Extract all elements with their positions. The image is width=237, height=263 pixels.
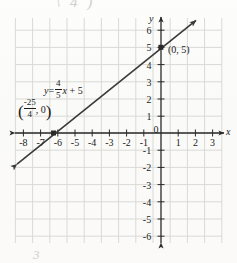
equation-label: y= 4 5 x + 5 [44,79,83,100]
tick-label-y-3: 3 [143,77,155,88]
tick-label-y-4: 4 [143,60,155,71]
tick-label-y-2: 2 [143,94,155,105]
tick-label-x--7: -7 [35,137,47,148]
tick-label-y--2: -2 [140,162,154,173]
tick-label-y--6: -6 [140,231,154,242]
x-intercept-fraction: -25 4 [24,98,36,119]
tick-label-y--1: -1 [140,145,154,156]
x-intercept-denominator: 4 [24,110,36,119]
tick-label-y--5: -5 [140,214,154,225]
close-paren: ) [46,105,52,119]
y-axis-label: y [149,14,153,24]
tick-label-y-6: 6 [143,25,155,36]
comma-zero: , 0 [36,104,46,115]
tick-label-y--3: -3 [140,180,154,191]
point-marker-y-intercept [158,45,163,50]
equation-coefficient-fraction: 4 5 [55,79,62,100]
tick-label-x-3: 3 [207,137,219,148]
equation-coef-denominator: 5 [55,91,62,100]
coordinate-plane [0,0,237,263]
x-axis-label: x [226,127,230,137]
equation-constant: 5 [78,85,83,96]
grid-lines-vertical [15,18,221,243]
equation-equals: = [48,85,54,96]
tick-label-x--5: -5 [69,137,81,148]
tick-label-x--6: -6 [52,137,64,148]
tick-label-x--2: -2 [121,137,133,148]
x-intercept-numerator: -25 [24,98,36,107]
tick-label-y-5: 5 [143,42,155,53]
equation-plus: + [70,85,76,96]
tick-label-x--3: -3 [103,137,115,148]
tick-label-y-1: 1 [143,111,155,122]
tick-label-y--4: -4 [140,197,154,208]
point-label-x-intercept: ( -25 4 , 0) [18,98,51,119]
tick-label-x-1: 1 [172,137,184,148]
equation-variable: x [63,85,67,96]
point-label-y-intercept: (0, 5) [168,45,190,55]
point-marker-x-intercept [51,131,56,136]
tick-label-x-2: 2 [189,137,201,148]
equation-coef-numerator: 4 [55,79,62,88]
tick-label-x--4: -4 [86,137,98,148]
tick-label-x--8: -8 [17,137,29,148]
tick-label-origin: 0 [150,124,162,135]
